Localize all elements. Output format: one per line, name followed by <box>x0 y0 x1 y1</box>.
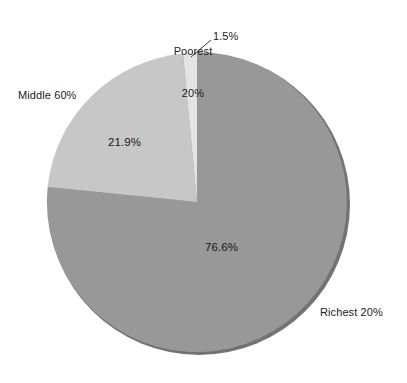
pie-chart: Poorest 20% 1.5% Middle 60% Richest 20% … <box>0 0 407 383</box>
slice-label-poorest-line1: Poorest <box>145 44 241 58</box>
slice-value-richest: 76.6% <box>205 240 238 254</box>
slice-label-middle: Middle 60% <box>18 88 76 102</box>
slice-value-poorest: 1.5% <box>213 29 238 43</box>
slice-label-richest: Richest 20% <box>320 305 383 319</box>
slice-label-poorest-line2: 20% <box>145 86 241 100</box>
slice-value-middle: 21.9% <box>108 135 141 149</box>
